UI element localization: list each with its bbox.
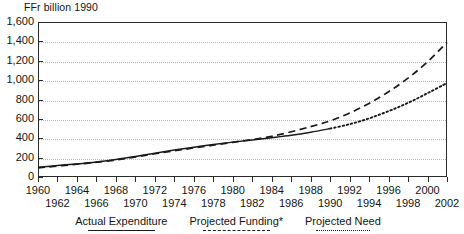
x-tick-mark bbox=[233, 177, 234, 182]
x-tick-mark bbox=[408, 177, 409, 182]
y-axis-unit-label: FFr billion 1990 bbox=[24, 1, 98, 13]
y-tick-label: 600 bbox=[0, 113, 34, 124]
y-tick-mark bbox=[38, 138, 43, 139]
legend-entry[interactable]: Projected Funding* bbox=[189, 215, 283, 231]
x-tick-mark bbox=[174, 177, 175, 182]
x-tick-mark bbox=[77, 177, 78, 182]
y-tick-label: 0 bbox=[0, 171, 34, 182]
y-tick-mark bbox=[38, 41, 43, 42]
chart-legend: Actual ExpenditureProjected Funding*Proj… bbox=[0, 215, 456, 231]
y-tick-label: 1,000 bbox=[0, 74, 34, 85]
x-tick-mark bbox=[389, 177, 390, 182]
x-tick-mark bbox=[38, 177, 39, 182]
x-tick-mark bbox=[96, 177, 97, 182]
y-tick-label: 1,200 bbox=[0, 55, 34, 66]
grid-line bbox=[39, 139, 446, 140]
y-tick-label: 400 bbox=[0, 132, 34, 143]
x-tick-mark bbox=[272, 177, 273, 182]
y-tick-label: 1,400 bbox=[0, 35, 34, 46]
y-tick-label: 1,600 bbox=[0, 16, 34, 27]
x-tick-label: 2000 bbox=[405, 184, 451, 196]
grid-line bbox=[39, 159, 446, 160]
grid-line bbox=[39, 42, 446, 43]
x-tick-mark bbox=[291, 177, 292, 182]
legend-line-swatch-dotted bbox=[316, 230, 371, 231]
x-tick-mark bbox=[252, 177, 253, 182]
x-tick-mark bbox=[194, 177, 195, 182]
y-tick-mark bbox=[38, 158, 43, 159]
y-tick-mark bbox=[38, 80, 43, 81]
y-tick-mark bbox=[38, 100, 43, 101]
grid-line bbox=[39, 62, 446, 63]
y-tick-label: 200 bbox=[0, 152, 34, 163]
legend-line-swatch-dashed bbox=[203, 230, 270, 231]
legend-label: Projected Need bbox=[305, 215, 381, 227]
x-tick-mark bbox=[428, 177, 429, 182]
legend-label: Projected Funding* bbox=[189, 215, 283, 227]
grid-line bbox=[39, 81, 446, 82]
y-tick-label: 800 bbox=[0, 94, 34, 105]
x-tick-mark bbox=[311, 177, 312, 182]
x-tick-mark bbox=[350, 177, 351, 182]
plot-area bbox=[38, 22, 447, 177]
x-tick-mark bbox=[57, 177, 58, 182]
grid-line bbox=[39, 120, 446, 121]
y-tick-mark bbox=[38, 119, 43, 120]
x-tick-mark bbox=[213, 177, 214, 182]
grid-line bbox=[39, 101, 446, 102]
x-tick-mark bbox=[447, 177, 448, 182]
x-tick-mark bbox=[135, 177, 136, 182]
x-tick-label: 2002 bbox=[424, 197, 464, 209]
legend-entry[interactable]: Actual Expenditure bbox=[75, 215, 167, 231]
legend-line-swatch-solid bbox=[88, 230, 155, 231]
x-tick-mark bbox=[369, 177, 370, 182]
x-tick-mark bbox=[330, 177, 331, 182]
x-tick-mark bbox=[116, 177, 117, 182]
legend-label: Actual Expenditure bbox=[75, 215, 167, 227]
x-tick-mark bbox=[155, 177, 156, 182]
legend-entry[interactable]: Projected Need bbox=[305, 215, 381, 231]
y-tick-mark bbox=[38, 61, 43, 62]
